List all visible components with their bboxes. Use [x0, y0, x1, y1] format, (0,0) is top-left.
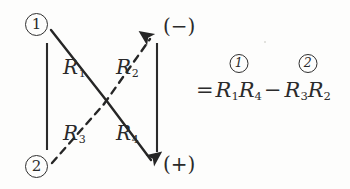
node-1-label: 1	[32, 17, 42, 32]
scan-speck	[264, 41, 266, 43]
r2-letter: R	[116, 55, 131, 79]
term-2-marker-badge: 2	[298, 54, 317, 73]
terminal-negative-label: (−)	[163, 16, 195, 36]
term-2-marker-label: 2	[304, 57, 312, 70]
term-2-factor-a-sub: 3	[300, 89, 307, 103]
term-2-factor-b-sub: 2	[324, 89, 331, 103]
term-1-factor-b-letter: R	[239, 78, 255, 102]
resistor-label-r2: R2	[116, 57, 138, 77]
term-1-factor-a-sub: 1	[231, 89, 238, 103]
equation-term-1: 1 R1R4	[216, 78, 262, 102]
resistor-label-r3: R3	[63, 123, 85, 143]
r2-subscript: 2	[132, 67, 139, 80]
r4-subscript: 4	[132, 133, 139, 146]
r3-subscript: 3	[79, 133, 86, 146]
node-1-badge: 1	[25, 13, 48, 36]
figure-canvas: 1 2 R1 R2 R3 R4 (−) (+) = 1 R1R4 − 2 R	[0, 0, 350, 189]
term-1-marker-badge: 1	[229, 54, 248, 73]
resistor-label-r1: R1	[63, 57, 85, 77]
equation-term-2: 2 R3R2	[285, 78, 331, 102]
terminal-positive-label: (+)	[163, 154, 195, 174]
minus-sign: −	[264, 78, 282, 102]
term-1-factor-a-letter: R	[216, 78, 232, 102]
r4-letter: R	[116, 121, 131, 145]
term-2-factor-b-letter: R	[308, 78, 324, 102]
term-1-marker-label: 1	[235, 57, 243, 70]
resistor-label-r4: R4	[116, 123, 138, 143]
term-2-factor-a-letter: R	[285, 78, 301, 102]
node-2-badge: 2	[25, 155, 48, 178]
term-1-factor-b-sub: 4	[255, 89, 262, 103]
equals-sign: =	[196, 78, 214, 102]
node-2-label: 2	[32, 159, 42, 174]
determinant-equation: = 1 R1R4 − 2 R3R2	[196, 78, 331, 102]
r3-letter: R	[63, 121, 78, 145]
r1-letter: R	[63, 55, 78, 79]
r1-subscript: 1	[79, 67, 86, 80]
